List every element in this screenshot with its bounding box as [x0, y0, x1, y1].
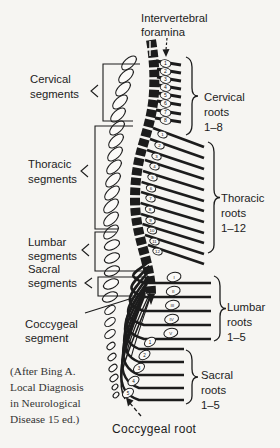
ganglion-number: II: [172, 289, 174, 294]
ganglion-number: 6: [164, 100, 167, 106]
lumbar-segments-tick: [82, 244, 89, 256]
ganglion-number: 4: [132, 379, 135, 384]
label-thoracic-segments-line1: Thoracic: [28, 158, 72, 170]
label-sacral-roots-line2: roots: [201, 384, 226, 396]
lumbar-segments-bracket: [95, 232, 143, 271]
ganglion-number: 2: [164, 68, 167, 74]
ganglion-number: IV: [170, 317, 174, 322]
label-sacral-segments-line1: Sacral: [28, 263, 60, 275]
label-coccygeal-segment-line1: Coccygeal: [25, 318, 78, 330]
label-lumbar-roots-line1: Lumbar: [227, 301, 266, 313]
cervical-segments-tick: [91, 85, 98, 97]
vertebra-shape: [103, 328, 117, 341]
thoracic-segments-tick: [81, 165, 88, 177]
label-sacral-roots-line3: 1–5: [201, 399, 220, 411]
vertebra-shape: [103, 238, 121, 253]
label-lumbar-segments-line2: segments: [28, 250, 77, 262]
citation-line1: (After Bing A.: [10, 365, 76, 378]
vertebra-shape: [102, 277, 120, 292]
ganglion-number: 5: [164, 92, 167, 98]
citation-line2: Local Diagnosis: [10, 381, 84, 393]
ganglion-number: 4: [164, 84, 167, 90]
ganglion-number: V: [169, 331, 172, 336]
ganglion-number: 8: [164, 117, 167, 123]
label-coccygeal-root: Coccygeal root: [112, 422, 197, 436]
label-intervertebral-foramina-line1: Intervertebral: [141, 12, 208, 24]
ganglion-number: 3: [138, 366, 141, 371]
cervical-roots-brace: [186, 57, 198, 135]
vertebra-shape: [111, 383, 119, 391]
ganglion-number: 2: [143, 353, 146, 358]
ganglion-number: III: [171, 303, 175, 308]
thoracic-roots-brace: [208, 142, 220, 253]
label-cervical-roots-line2: roots: [204, 106, 229, 118]
label-thoracic-roots-line1: Thoracic: [221, 192, 265, 204]
foramina-arrow-head-icon: [163, 49, 170, 57]
sacral-segments-tick: [85, 278, 92, 288]
citation-line4: Disease 15 ed.): [10, 413, 80, 426]
ganglion-number: 10: [150, 228, 155, 233]
ganglion-number: 11: [152, 239, 157, 244]
lumbar-roots-brace: [214, 276, 226, 341]
book-figure-page: 12345678123456789101112IIIIIIIVV12345 In…: [0, 0, 280, 448]
vertebra-shape: [109, 373, 120, 383]
vertebra-shape: [106, 341, 117, 351]
label-cervical-segments-line1: Cervical: [30, 73, 71, 85]
label-sacral-roots-line1: Sacral: [201, 369, 233, 381]
vertebra-shape: [103, 316, 117, 329]
ganglion-number: 12: [155, 249, 160, 254]
coccygeal-root-arrow-line: [129, 402, 141, 416]
vertebra-shape: [112, 391, 120, 399]
label-lumbar-roots-line2: roots: [227, 316, 252, 328]
label-cervical-roots-line3: 1–8: [204, 121, 223, 133]
citation-line3: in Neurological: [10, 397, 81, 409]
vertebra-shape: [107, 352, 118, 362]
label-cervical-roots-line1: Cervical: [204, 91, 245, 103]
ganglion-number: 3: [164, 76, 167, 82]
ganglion-number: 7: [164, 109, 167, 115]
foramina-arrow-line: [166, 38, 167, 50]
spine-drawing: 12345678123456789101112IIIIIIIVV12345: [101, 40, 211, 400]
vertebra-shape: [108, 363, 119, 373]
ganglion-number: 1: [149, 340, 152, 345]
label-coccygeal-segment-line2: segment: [25, 332, 69, 344]
label-thoracic-roots-line2: roots: [221, 207, 246, 219]
label-thoracic-roots-line3: 1–12: [221, 222, 246, 234]
spinal-cord-diagram: 12345678123456789101112IIIIIIIVV12345 In…: [0, 0, 280, 448]
label-sacral-segments-line2: segments: [28, 277, 77, 289]
vertebra-shape: [101, 290, 119, 305]
label-cervical-segments-line2: segments: [30, 88, 79, 100]
label-lumbar-segments-line1: Lumbar: [28, 236, 67, 248]
ganglion-number: 5: [127, 391, 130, 396]
label-thoracic-segments-line2: segments: [28, 173, 77, 185]
ganglion-number: I: [173, 275, 174, 280]
vertebra-shape: [103, 251, 121, 266]
sacral-roots-brace: [186, 350, 198, 404]
ganglion-number: 1: [164, 60, 167, 66]
label-lumbar-roots-line3: 1–5: [227, 331, 246, 343]
label-intervertebral-foramina-line2: foramina: [141, 26, 186, 38]
